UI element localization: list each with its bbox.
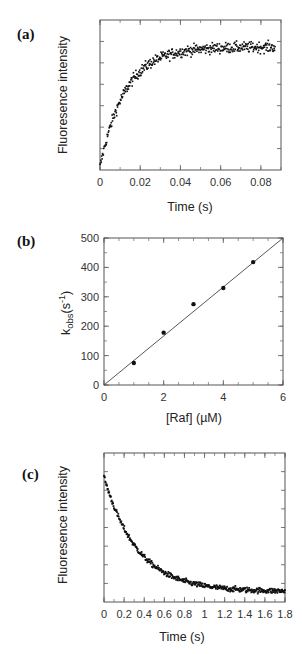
data-point (158, 567, 160, 569)
x-tick-label: 1.8 (277, 608, 292, 620)
data-point (137, 74, 139, 76)
data-point (244, 49, 246, 51)
x-tick-label: 0.02 (130, 176, 151, 188)
data-point (258, 41, 260, 43)
data-point (154, 63, 156, 65)
data-point (103, 148, 105, 150)
data-point (271, 44, 273, 46)
data-point (191, 584, 193, 586)
data-point (170, 52, 172, 54)
data-point (265, 42, 267, 44)
data-point (151, 560, 153, 562)
x-axis-title: Time (s) (167, 200, 212, 214)
plot-frame (104, 453, 285, 602)
y-tick-label: 100 (81, 350, 99, 362)
data-point (233, 48, 235, 50)
data-point (225, 48, 227, 50)
data-point (246, 587, 248, 589)
data-point (131, 78, 133, 80)
ylabel-unit: (s (59, 303, 73, 313)
data-point (169, 50, 171, 52)
data-point (243, 41, 245, 43)
data-point (229, 51, 231, 53)
data-point (233, 590, 235, 592)
data-point (123, 528, 125, 530)
data-point (193, 43, 195, 45)
data-point (155, 54, 157, 56)
data-point (241, 48, 243, 50)
x-tick-label: 0.06 (210, 176, 231, 188)
data-point (255, 46, 257, 48)
linear-fit-line (104, 238, 283, 385)
ylabel-close: ) (59, 291, 73, 295)
x-tick-label: 0.2 (116, 608, 131, 620)
data-point (161, 58, 163, 60)
data-point (119, 103, 121, 105)
data-point (144, 554, 146, 556)
data-point (101, 155, 103, 157)
data-point (284, 592, 286, 594)
data-point (128, 88, 130, 90)
data-point (216, 45, 218, 47)
x-axis-title: [Raf] (µM) (166, 411, 222, 425)
data-point (253, 49, 255, 51)
data-point (152, 57, 154, 59)
data-points (103, 475, 286, 595)
data-point (244, 587, 246, 589)
data-point (184, 54, 186, 56)
data-point (232, 51, 234, 53)
data-point (266, 44, 268, 46)
data-point (230, 49, 232, 51)
data-point (129, 85, 131, 87)
data-point (251, 589, 253, 591)
data-point (144, 556, 146, 558)
data-point (132, 81, 134, 83)
data-point (211, 51, 213, 53)
x-tick-label: 0 (97, 176, 103, 188)
data-point (219, 53, 221, 55)
x-tick-label: 0 (101, 608, 107, 620)
data-point (140, 74, 142, 76)
data-point (137, 548, 139, 550)
data-point (252, 51, 254, 53)
data-point (209, 45, 211, 47)
data-point (149, 59, 151, 61)
x-tick-label: 0.08 (250, 176, 271, 188)
data-point (120, 520, 122, 522)
data-point (247, 48, 249, 50)
x-tick-label: 1.6 (257, 608, 272, 620)
data-point (227, 43, 229, 45)
x-tick-label: 4 (220, 391, 226, 403)
data-point (142, 71, 144, 73)
data-point (103, 154, 105, 156)
data-point (151, 61, 153, 63)
data-point (183, 51, 185, 53)
data-point (106, 142, 108, 144)
data-point (276, 592, 278, 594)
data-point (221, 286, 225, 290)
x-tick-label: 1 (201, 608, 207, 620)
axis-ticks: 00.020.040.060.08 (97, 20, 281, 188)
data-point (198, 52, 200, 54)
data-point (217, 50, 219, 52)
data-point (141, 64, 143, 66)
data-point (250, 41, 252, 43)
data-point (194, 51, 196, 53)
x-tick-label: 1.2 (217, 608, 232, 620)
plot-frame (100, 20, 281, 170)
data-point (110, 122, 112, 124)
data-point (234, 585, 236, 587)
data-point (161, 330, 165, 334)
data-point (165, 573, 167, 575)
data-point (196, 50, 198, 52)
data-point (108, 130, 110, 132)
x-tick-label: 0.6 (157, 608, 172, 620)
chart-panel-b: 02460100200300400500 [Raf] (µM) kobs(s-1… (57, 232, 286, 425)
x-tick-label: 1.4 (237, 608, 252, 620)
data-point (143, 67, 145, 69)
axis-ticks: 00.20.40.60.811.21.41.61.8 (101, 453, 293, 620)
data-point (280, 591, 282, 593)
data-point (113, 114, 115, 116)
y-tick-label: 500 (81, 232, 99, 244)
data-point (194, 47, 196, 49)
